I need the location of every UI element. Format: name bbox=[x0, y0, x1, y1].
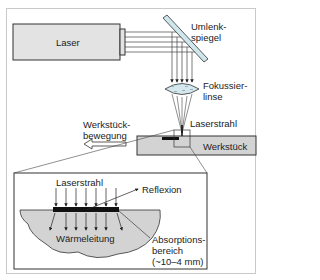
absorption-label: Absorptions- bereich (~10–4 mm) bbox=[152, 234, 205, 267]
focusing-lens bbox=[165, 84, 199, 95]
laser-label: Laser bbox=[56, 37, 80, 48]
reflection-label: Reflexion bbox=[142, 184, 182, 195]
detail-beam-label: Laserstrahl bbox=[56, 177, 103, 188]
focused-beam bbox=[172, 94, 192, 137]
workpiece-label: Werkstück bbox=[203, 141, 247, 152]
heat-conduction-label: Wärmeleitung bbox=[56, 233, 115, 244]
mirror-label: Umlenk- spiegel bbox=[191, 21, 226, 43]
beam-label-top: Laserstrahl bbox=[190, 118, 237, 129]
workpiece-motion-label: Werkstück- bewegung bbox=[83, 119, 130, 141]
lens-label: Fokussier- linse bbox=[203, 80, 247, 102]
